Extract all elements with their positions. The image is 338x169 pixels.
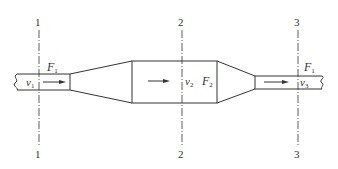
pipe-flow-diagram: 1 1 2 2 3 3 F1 v1 v2 F2 F1 v3 xyxy=(0,0,338,169)
velocity-label-right: v3 xyxy=(300,76,309,90)
left-expansion-cone xyxy=(70,61,132,103)
area-label-left: F1 xyxy=(46,60,58,75)
velocity-label-left: v1 xyxy=(26,76,35,90)
right-contraction-cone xyxy=(217,61,255,103)
left-pipe-break-icon xyxy=(14,74,17,90)
velocity-label-middle: v2 xyxy=(185,75,194,89)
section-3-bottom-label: 3 xyxy=(294,148,300,160)
area-label-middle: F2 xyxy=(201,74,213,89)
flow-arrow-left-icon xyxy=(43,80,66,84)
section-2-top-label: 2 xyxy=(178,16,184,28)
right-pipe-break-icon xyxy=(321,76,323,89)
flow-arrow-middle-icon xyxy=(148,79,170,83)
section-2-bottom-label: 2 xyxy=(178,148,184,160)
flow-arrow-right-icon xyxy=(264,80,289,84)
section-1-top-label: 1 xyxy=(35,16,41,28)
section-3-top-label: 3 xyxy=(294,16,300,28)
area-label-right: F1 xyxy=(303,60,315,75)
section-1-bottom-label: 1 xyxy=(35,148,41,160)
